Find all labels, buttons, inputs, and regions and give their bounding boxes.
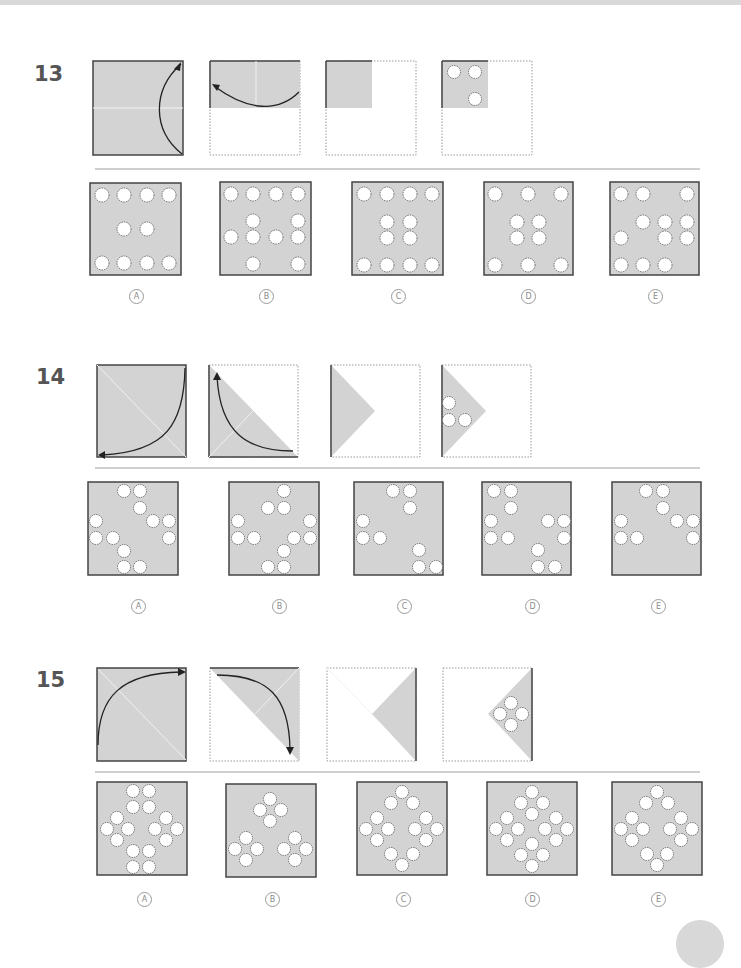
q15-divider xyxy=(95,771,700,773)
q13-option-e-label[interactable]: E xyxy=(648,289,663,304)
q14-option-d-label[interactable]: D xyxy=(525,599,540,614)
question-number-14: 14 xyxy=(36,365,65,389)
q13-option-a-figure[interactable] xyxy=(89,182,183,276)
q15-option-b-label[interactable]: B xyxy=(265,892,280,907)
q15-option-e-figure[interactable] xyxy=(611,781,704,876)
q14-option-d-figure[interactable] xyxy=(481,481,573,576)
q15-option-d-label[interactable]: D xyxy=(525,892,540,907)
q14-option-e-label[interactable]: E xyxy=(651,599,666,614)
q14-option-b-label[interactable]: B xyxy=(272,599,287,614)
q13-option-d-label[interactable]: D xyxy=(521,289,536,304)
q13-option-b-figure[interactable] xyxy=(219,181,313,276)
q14-divider xyxy=(95,467,700,469)
q15-step3-folded-triangle xyxy=(326,667,418,763)
q14-option-b-figure[interactable] xyxy=(228,481,321,576)
q13-option-d-figure[interactable] xyxy=(483,181,575,276)
q14-option-c-label[interactable]: C xyxy=(397,599,412,614)
q14-option-e-figure[interactable] xyxy=(611,481,703,576)
q15-option-b-figure[interactable] xyxy=(225,783,318,878)
q15-step4-punched xyxy=(442,667,534,763)
q13-option-c-label[interactable]: C xyxy=(391,289,406,304)
q15-option-e-label[interactable]: E xyxy=(651,892,666,907)
q15-step1-fold-diagonal xyxy=(96,667,188,763)
q13-step3-folded-quarter xyxy=(325,60,418,156)
q14-option-a-label[interactable]: A xyxy=(131,599,146,614)
q13-option-a-label[interactable]: A xyxy=(129,289,144,304)
q13-divider xyxy=(95,168,700,170)
q14-step4-punched xyxy=(441,364,533,459)
q14-option-a-figure[interactable] xyxy=(87,481,180,576)
question-number-15: 15 xyxy=(36,668,65,692)
q15-step2-fold-down xyxy=(209,667,301,763)
q13-option-b-label[interactable]: B xyxy=(259,289,274,304)
q14-step2-fold-up xyxy=(208,364,300,459)
q15-option-a-label[interactable]: A xyxy=(137,892,152,907)
q15-option-a-figure[interactable] xyxy=(96,781,189,876)
q14-option-c-figure[interactable] xyxy=(353,481,445,576)
question-number-13: 13 xyxy=(34,62,63,86)
q13-step1-fold-up xyxy=(92,60,184,156)
q15-option-d-figure[interactable] xyxy=(486,781,579,876)
q15-option-c-label[interactable]: C xyxy=(396,892,411,907)
q13-option-e-figure[interactable] xyxy=(609,181,701,276)
q14-step1-fold-diagonal xyxy=(96,364,188,459)
page-number-badge xyxy=(676,920,724,968)
q13-step2-fold-left xyxy=(209,60,302,156)
q13-option-c-figure[interactable] xyxy=(351,181,445,276)
q15-option-c-figure[interactable] xyxy=(356,781,449,876)
q14-step3-folded-triangle xyxy=(330,364,422,459)
q13-step4-punched xyxy=(441,60,534,156)
page-top-edge xyxy=(0,0,741,5)
